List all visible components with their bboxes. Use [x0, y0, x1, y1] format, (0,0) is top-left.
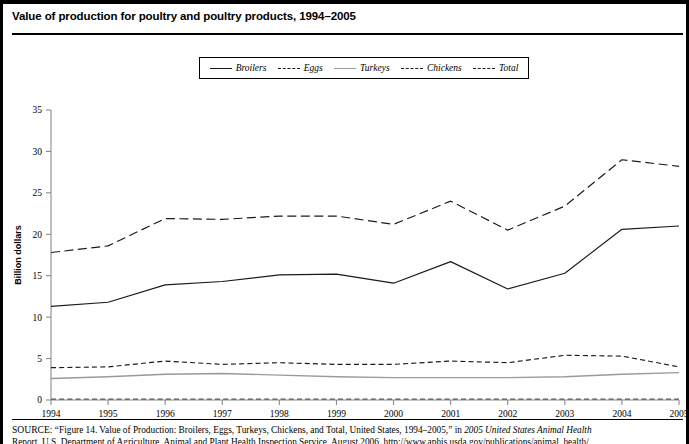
y-tick-label: 0: [37, 395, 42, 405]
legend-swatch-icon: [210, 65, 232, 72]
x-tick-label: 1998: [270, 409, 289, 418]
x-tick-label: 1997: [213, 409, 232, 418]
figure-title-bar: Value of production for poultry and poul…: [12, 10, 677, 32]
source-keyword: SOURCE:: [12, 424, 53, 435]
x-tick-label: 1996: [156, 409, 175, 418]
x-tick-label: 2002: [498, 409, 517, 418]
x-tick-label: 2004: [612, 409, 631, 418]
y-tick-label: 5: [37, 354, 42, 364]
source-line1-text: “Figure 14. Value of Production: Broiler…: [53, 425, 465, 435]
y-tick-label: 10: [33, 313, 43, 323]
chart-legend: BroilersEggsTurkeysChickensTotal: [199, 57, 529, 79]
x-tick-label: 2005: [670, 409, 689, 418]
legend-label: Broilers: [236, 63, 267, 73]
y-axis-ticks: 05101520253035: [33, 105, 52, 405]
y-tick-label: 30: [33, 147, 43, 157]
legend-label: Total: [499, 63, 518, 73]
legend-item: Eggs: [278, 63, 323, 73]
series-line-eggs: [51, 355, 679, 367]
x-tick-label: 1994: [42, 409, 61, 418]
series-line-total: [51, 160, 679, 253]
y-tick-label: 25: [33, 188, 43, 198]
source-line1-italic: 2005 United States Animal Health: [464, 425, 591, 435]
x-tick-label: 1995: [99, 409, 118, 418]
legend-label: Eggs: [304, 63, 323, 73]
legend-item: Turkeys: [334, 63, 390, 73]
series-line-turkeys: [51, 373, 679, 379]
legend-swatch-icon: [473, 65, 495, 72]
legend-swatch-icon: [401, 65, 423, 72]
page-title: Value of production for poultry and poul…: [12, 10, 677, 22]
axes: [51, 110, 679, 400]
source-divider: [12, 419, 683, 420]
legend-item: Broilers: [210, 63, 267, 73]
legend-item: Chickens: [401, 63, 462, 73]
y-tick-label: 15: [33, 271, 43, 281]
x-tick-label: 2000: [384, 409, 403, 418]
plot-area: 05101520253035Billion dollars19941995199…: [3, 88, 689, 418]
x-tick-label: 2001: [441, 409, 460, 418]
x-tick-label: 2003: [555, 409, 574, 418]
y-tick-label: 35: [33, 105, 43, 115]
source-note: SOURCE: “Figure 14. Value of Production:…: [12, 424, 677, 444]
line-chart: 05101520253035Billion dollars19941995199…: [3, 88, 689, 418]
x-axis-ticks: 1994199519961997199819992000200120022003…: [42, 400, 689, 418]
title-divider: [12, 33, 683, 35]
x-tick-label: 1999: [327, 409, 346, 418]
series-line-broilers: [51, 226, 679, 306]
y-tick-label: 20: [33, 230, 43, 240]
legend-swatch-icon: [334, 65, 356, 72]
legend-label: Chickens: [427, 63, 462, 73]
top-rule: [3, 0, 689, 4]
legend-swatch-icon: [278, 65, 300, 72]
source-line2: Report, U.S. Department of Agriculture, …: [12, 437, 677, 444]
y-axis-label: Billion dollars: [13, 225, 23, 285]
legend-item: Total: [473, 63, 518, 73]
legend-label: Turkeys: [360, 63, 390, 73]
figure-panel: Value of production for poultry and poul…: [0, 0, 689, 444]
